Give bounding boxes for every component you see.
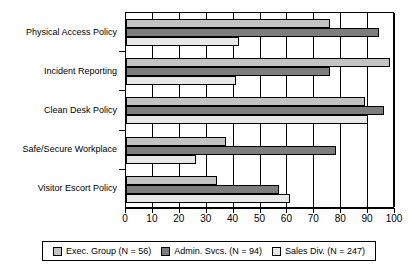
bar — [126, 115, 368, 124]
x-axis-tick-label: 0 — [122, 213, 128, 224]
y-axis-label: Visitor Escort Policy — [38, 183, 117, 193]
legend-label: Sales Div. (N = 247) — [285, 246, 365, 256]
x-axis-tick-label: 90 — [362, 213, 373, 224]
bar — [126, 155, 196, 164]
x-axis-tick-label: 80 — [335, 213, 346, 224]
x-axis-tick-label: 30 — [200, 213, 211, 224]
bar-group — [126, 131, 393, 170]
bar — [126, 97, 365, 106]
bar-group — [126, 170, 393, 209]
plot-area — [125, 12, 394, 208]
y-axis-label: Incident Reporting — [44, 66, 117, 76]
legend-swatch-admin-svcs — [161, 247, 170, 256]
bar-group — [126, 91, 393, 130]
x-axis-tick-label: 40 — [227, 213, 238, 224]
bar — [126, 146, 336, 155]
bar-chart: Physical Access PolicyIncident Reporting… — [0, 0, 419, 270]
bar — [126, 37, 239, 46]
x-axis-tick-label: 50 — [254, 213, 265, 224]
bar — [126, 19, 330, 28]
bar-group — [126, 13, 393, 52]
legend-label: Admin. Svcs. (N = 94) — [174, 246, 262, 256]
x-axis-tick-label: 20 — [173, 213, 184, 224]
x-axis-tick-label: 60 — [281, 213, 292, 224]
x-axis-tick-label: 10 — [146, 213, 157, 224]
bar — [126, 176, 217, 185]
legend-swatch-exec-group — [53, 247, 62, 256]
y-axis-label: Clean Desk Policy — [44, 105, 117, 115]
bar-group — [126, 52, 393, 91]
chart-legend: Exec. Group (N = 56)Admin. Svcs. (N = 94… — [42, 241, 376, 261]
x-axis-tick-label: 70 — [308, 213, 319, 224]
legend-item[interactable]: Exec. Group (N = 56) — [53, 246, 151, 256]
bar — [126, 67, 330, 76]
y-axis-category-labels: Physical Access PolicyIncident Reporting… — [0, 12, 122, 208]
gridline — [394, 13, 395, 207]
legend-swatch-sales-div — [272, 247, 281, 256]
bar — [126, 194, 290, 203]
bar — [126, 58, 390, 67]
legend-item[interactable]: Sales Div. (N = 247) — [272, 246, 365, 256]
bar — [126, 137, 226, 146]
y-axis-label: Physical Access Policy — [26, 27, 117, 37]
bar — [126, 106, 384, 115]
bar — [126, 185, 279, 194]
legend-label: Exec. Group (N = 56) — [66, 246, 151, 256]
bar — [126, 76, 236, 85]
legend-item[interactable]: Admin. Svcs. (N = 94) — [161, 246, 262, 256]
x-axis-tick-label: 100 — [386, 213, 403, 224]
y-axis-label: Safe/Secure Workplace — [23, 144, 117, 154]
bar — [126, 28, 379, 37]
